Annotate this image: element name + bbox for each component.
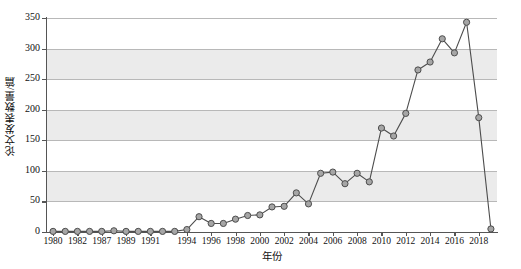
y-tick-mark <box>42 232 47 233</box>
y-tick-label: 200 <box>0 104 40 114</box>
gridline <box>47 18 497 19</box>
x-tick-label: 1991 <box>130 237 170 247</box>
y-tick-label: 150 <box>0 134 40 144</box>
y-tick-label: 0 <box>0 226 40 236</box>
y-tick-label: 250 <box>0 73 40 83</box>
y-tick-label: 100 <box>0 165 40 175</box>
line-chart: 论文发表数量/篇 050100150200250300350 198019821… <box>0 0 521 269</box>
gridline <box>47 49 497 50</box>
background-band <box>47 110 497 141</box>
y-tick-mark <box>42 79 47 80</box>
gridline <box>47 171 497 172</box>
y-tick-mark <box>42 171 47 172</box>
background-band <box>47 49 497 80</box>
x-axis-title: 年份 <box>47 248 497 263</box>
y-tick-mark <box>42 49 47 50</box>
y-tick-label: 350 <box>0 12 40 22</box>
gridline <box>47 140 497 141</box>
y-tick-mark <box>42 110 47 111</box>
y-tick-label: 50 <box>0 195 40 205</box>
plot-area <box>47 18 497 232</box>
gridline <box>47 201 497 202</box>
y-tick-label: 300 <box>0 43 40 53</box>
x-tick-label: 2018 <box>459 237 499 247</box>
y-tick-mark <box>42 140 47 141</box>
y-tick-mark <box>42 18 47 19</box>
y-tick-mark <box>42 201 47 202</box>
gridline <box>47 79 497 80</box>
gridline <box>47 110 497 111</box>
background-band <box>47 171 497 202</box>
